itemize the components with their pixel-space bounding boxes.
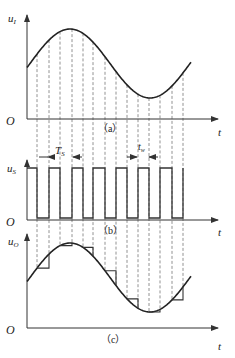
pulse-width-tw-annotation: tw <box>127 141 158 157</box>
panel-a-origin-label: O <box>6 114 15 128</box>
panel-c-origin-label: O <box>6 323 15 337</box>
sample-and-hold-diagram: uI O t （a） uS O t （b） TS tw uO O t <box>0 0 235 358</box>
panel-b-y-label: uS <box>7 162 17 176</box>
ts-label: TS <box>55 144 65 158</box>
panel-c-caption: （c） <box>101 334 125 345</box>
panel-c-y-label: uO <box>8 235 19 249</box>
period-ts-annotation: TS <box>39 144 82 158</box>
panel-b-origin-label: O <box>6 215 15 229</box>
panel-b-sampling-pulses: uS O t （b） TS tw <box>6 141 222 238</box>
panel-c-t-label: t <box>218 340 222 352</box>
output-sine-curve <box>27 243 191 312</box>
panel-a-y-label: uI <box>8 12 17 26</box>
panel-a-caption: （a） <box>98 123 122 134</box>
sampling-guide-lines <box>37 29 183 312</box>
tw-label: tw <box>138 141 145 153</box>
panel-c-output-signal: uO O t （c） <box>6 234 222 352</box>
panel-a-t-label: t <box>218 126 222 138</box>
sampling-pulse-train <box>27 168 183 218</box>
panel-b-caption: （b） <box>98 225 123 236</box>
panel-a-input-signal: uI O t （a） <box>6 12 222 138</box>
input-sine-curve <box>27 29 191 98</box>
panel-b-t-label: t <box>218 226 222 238</box>
